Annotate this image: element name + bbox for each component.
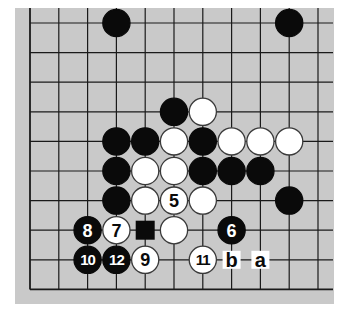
move-number-label: 9 [140,250,150,270]
black-stone [276,187,303,214]
white-stone [132,157,159,184]
black-stone [218,157,245,184]
move-number-label: 5 [169,191,179,211]
letter-label-b: b [225,249,237,271]
go-board: 58761012911 ba [0,0,339,316]
black-stone [189,157,216,184]
black-stone [103,157,130,184]
black-stone [189,128,216,155]
markers-layer [136,221,155,240]
black-stone [103,9,130,36]
white-stone [218,128,245,155]
black-square-marker [136,221,155,240]
black-stone [247,157,274,184]
black-stone [132,128,159,155]
move-number-label: 12 [109,251,124,268]
black-stone [103,128,130,155]
white-stone [276,128,303,155]
move-number-label: 10 [80,251,95,268]
letter-label-a: a [255,249,267,271]
white-stone [160,217,187,244]
move-number-label: 7 [111,221,121,241]
black-stone [160,98,187,125]
white-stone [247,128,274,155]
white-stone [160,157,187,184]
white-stone [189,187,216,214]
black-stone [276,9,303,36]
black-stone [103,187,130,214]
white-stone [160,128,187,155]
move-number-label: 11 [196,251,211,268]
move-number-label: 8 [83,221,93,241]
white-stone [189,98,216,125]
go-diagram: 58761012911 ba [0,0,339,316]
white-stone [132,187,159,214]
move-number-label: 6 [227,221,237,241]
